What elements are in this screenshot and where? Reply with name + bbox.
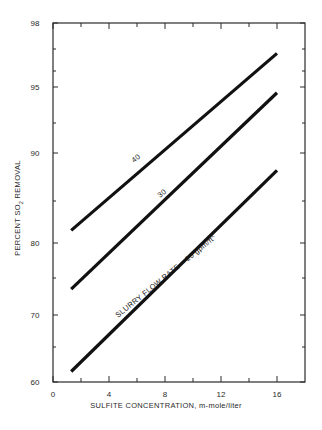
x-tick-label: 4	[107, 390, 112, 399]
chart: 607080909598 0481216 40 30 SLURRY FLOW R…	[0, 0, 322, 430]
y-axis-ticks: 607080909598	[31, 19, 305, 387]
series-lines	[71, 53, 277, 371]
x-tick-label: 12	[217, 390, 226, 399]
y-axis-title: PERCENT SO2 REMOVAL	[13, 160, 24, 256]
x-tick-label: 0	[51, 390, 56, 399]
series-line-30	[71, 93, 277, 289]
y-tick-label: 80	[31, 239, 40, 248]
series-label-20: SLURRY FLOW RATE = 20 gpm/ft2	[113, 232, 218, 320]
plot-frame	[53, 23, 305, 382]
y-tick-label: 60	[31, 378, 40, 387]
y-tick-label: 70	[31, 311, 40, 320]
y-tick-label: 95	[31, 83, 40, 92]
x-tick-label: 8	[163, 390, 168, 399]
plot-border	[53, 23, 305, 382]
series-line-40	[71, 53, 277, 230]
y-tick-label: 98	[31, 19, 40, 28]
x-tick-label: 16	[273, 390, 282, 399]
y-tick-label: 90	[31, 149, 40, 158]
series-label-40: 40	[130, 152, 143, 165]
x-axis-title: SULFITE CONCENTRATION, m-mole/liter	[90, 401, 242, 410]
